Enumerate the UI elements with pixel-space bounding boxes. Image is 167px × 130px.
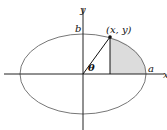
ellipse-diagram: y x b a (x, y) θ [0, 0, 167, 130]
point-marker [108, 35, 112, 39]
x-axis-label: x [163, 69, 167, 80]
theta-label: θ [88, 62, 95, 73]
b-label: b [75, 23, 81, 34]
point-label: (x, y) [106, 24, 132, 35]
a-label: a [148, 63, 154, 74]
y-axis-label: y [79, 4, 86, 15]
shaded-region [110, 37, 146, 74]
